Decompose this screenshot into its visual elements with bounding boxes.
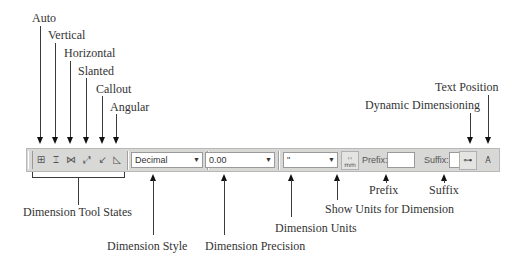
suffix-label: Suffix: — [424, 153, 449, 167]
callout-prefix: Prefix — [369, 184, 398, 197]
arrow-icon — [52, 137, 58, 144]
leader-line — [337, 180, 338, 200]
callout-dimension-units: Dimension Units — [275, 222, 357, 235]
leader-line — [86, 78, 87, 138]
callout-auto: Auto — [32, 12, 56, 25]
leader-line — [470, 113, 471, 138]
leader-line — [291, 180, 292, 217]
arrow-icon — [485, 137, 491, 144]
leader-line — [40, 26, 41, 138]
arrow-icon — [37, 137, 43, 144]
show-units-icon-bottom: mm — [342, 161, 358, 168]
dimension-toolbar: ⊞ ⌶ ⋈ ⤢ ↙ ◺ Decimal ▼ 0.00 ▼ " ▼ ›› mm P… — [26, 148, 500, 172]
callout-callout: Callout — [96, 83, 131, 96]
leader-line — [78, 177, 79, 205]
dimension-precision-select[interactable]: 0.00 ▼ — [205, 152, 275, 168]
dimension-precision-value: 0.00 — [209, 155, 227, 165]
prefix-label: Prefix: — [362, 153, 388, 167]
callout-vertical: Vertical — [48, 29, 85, 42]
text-position-button[interactable]: A — [479, 151, 497, 170]
show-units-icon-top: ›› — [342, 154, 358, 161]
prefix-input[interactable] — [387, 152, 415, 168]
dimension-units-select[interactable]: " ▼ — [283, 152, 338, 168]
arrow-icon — [67, 137, 73, 144]
callout-show-units: Show Units for Dimension — [325, 203, 454, 216]
leader-line — [224, 180, 225, 235]
dimension-style-value: Decimal — [135, 155, 168, 165]
leader-line — [153, 180, 154, 235]
arrow-icon — [99, 137, 105, 144]
callout-horizontal: Horizontal — [64, 47, 115, 60]
show-units-button[interactable]: ›› mm — [341, 151, 359, 170]
vertical-dimension-icon[interactable]: ⌶ — [49, 152, 63, 168]
angular-dimension-icon[interactable]: ◺ — [110, 152, 124, 168]
toolbar-grip[interactable] — [28, 151, 33, 169]
callout-slanted: Slanted — [78, 65, 114, 78]
dimension-units-value: " — [287, 155, 290, 165]
chevron-down-icon: ▼ — [193, 153, 200, 167]
leader-line — [488, 95, 489, 138]
arrow-icon — [113, 137, 119, 144]
chevron-down-icon: ▼ — [265, 153, 272, 167]
leader-line — [70, 61, 71, 138]
leader-line — [116, 114, 117, 138]
chevron-down-icon: ▼ — [328, 153, 335, 167]
leader-line — [102, 96, 103, 138]
slanted-dimension-icon[interactable]: ⤢ — [80, 152, 94, 168]
callout-dynamic-dimensioning: Dynamic Dimensioning — [365, 99, 480, 112]
auto-dimension-icon[interactable]: ⊞ — [34, 152, 48, 168]
arrow-icon — [83, 137, 89, 144]
arrow-icon — [467, 137, 473, 144]
callout-suffix: Suffix — [429, 184, 459, 197]
callout-dimension-tool-states: Dimension Tool States — [23, 206, 132, 219]
separator — [278, 151, 280, 170]
dynamic-dimensioning-button[interactable]: ⊶ — [459, 151, 477, 170]
horizontal-dimension-icon[interactable]: ⋈ — [64, 152, 78, 168]
callout-dimension-style: Dimension Style — [107, 240, 187, 253]
dynamic-dimensioning-icon: ⊶ — [464, 155, 473, 165]
dimension-style-select[interactable]: Decimal ▼ — [131, 152, 203, 168]
callout-dimension-precision: Dimension Precision — [205, 240, 305, 253]
text-position-icon: A — [485, 156, 490, 165]
callout-angular: Angular — [110, 101, 149, 114]
separator — [127, 151, 129, 170]
callout-dimension-icon[interactable]: ↙ — [96, 152, 110, 168]
leader-line — [55, 43, 56, 138]
callout-text-position: Text Position — [435, 81, 499, 94]
